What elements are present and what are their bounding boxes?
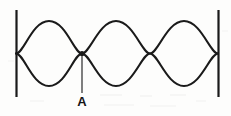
- standing-wave-figure: A: [0, 0, 231, 116]
- scan-noise: [8, 30, 228, 107]
- wave-positive-phase: [16, 21, 218, 54]
- wave-diagram-svg: [0, 0, 231, 116]
- node-label-a: A: [74, 95, 90, 108]
- wave-negative-phase: [16, 54, 218, 87]
- node-marker-a: [79, 51, 84, 56]
